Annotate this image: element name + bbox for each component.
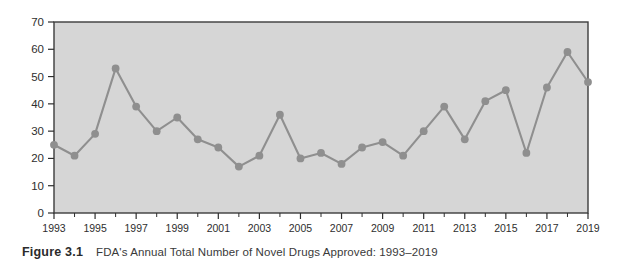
x-axis-tick-label: 2013 [453,222,477,232]
data-point-marker: 1999: 35 [173,114,181,122]
x-axis-tick-label: 2015 [494,222,518,232]
y-axis-tick-label: 30 [31,125,44,137]
data-point-marker: 1994: 21 [71,152,79,160]
chart-plot-area: 010203040506070 199319951997199920012003… [0,0,621,232]
x-axis-tick-label: 2001 [207,222,231,232]
data-point-marker: 2011: 30 [420,127,428,135]
y-axis-tick-label: 10 [31,180,44,192]
x-axis-tick-label: 2005 [289,222,313,232]
x-axis-tick-label: 1999 [166,222,190,232]
x-axis-tick-label: 2003 [248,222,272,232]
x-axis-tick-label: 1993 [42,222,66,232]
line-chart: 010203040506070 199319951997199920012003… [0,0,621,232]
data-point-marker: 2019: 48 [584,78,592,86]
data-point-marker: 2001: 24 [214,144,222,152]
data-point-marker: 2013: 27 [461,135,469,143]
figure-caption: Figure 3.1 FDA's Annual Total Number of … [22,241,602,263]
data-point-marker: 2002: 17 [235,163,243,171]
y-axis-ticks: 010203040506070 [31,16,54,219]
data-point-marker: 2014: 41 [481,97,489,105]
figure-caption-text: FDA's Annual Total Number of Novel Drugs… [96,246,438,258]
data-point-marker: 2018: 59 [564,48,572,56]
data-point-marker: 2007: 18 [338,160,346,168]
data-point-marker: 2008: 24 [358,144,366,152]
data-point-marker: 2004: 36 [276,111,284,119]
figure-caption-label: Figure 3.1 [22,245,83,259]
y-axis-tick-label: 0 [38,207,44,219]
data-point-marker: 1997: 39 [132,103,140,111]
data-point-marker: 2015: 45 [502,86,510,94]
x-axis-tick-label: 2009 [371,222,395,232]
y-axis-tick-label: 20 [31,152,44,164]
data-point-marker: 1993: 25 [50,141,58,149]
x-axis-tick-label: 2019 [576,222,600,232]
x-axis-tick-label: 1997 [124,222,148,232]
data-point-marker: 1996: 53 [112,64,120,72]
data-point-marker: 1995: 29 [91,130,99,138]
data-point-marker: 2016: 22 [522,149,530,157]
y-axis-tick-label: 70 [31,16,44,28]
x-axis-tick-label: 1995 [83,222,107,232]
plot-background [54,22,588,213]
data-point-marker: 2006: 22 [317,149,325,157]
y-axis-tick-label: 40 [31,98,44,110]
y-axis-tick-label: 50 [31,71,44,83]
data-point-marker: 2010: 21 [399,152,407,160]
data-point-marker: 2005: 20 [297,155,305,163]
data-point-marker: 2009: 26 [379,138,387,146]
x-axis-tick-label: 2007 [330,222,354,232]
data-point-marker: 2017: 46 [543,84,551,92]
data-point-marker: 2000: 27 [194,135,202,143]
data-point-marker: 1998: 30 [153,127,161,135]
data-point-marker: 2003: 21 [255,152,263,160]
x-axis-tick-label: 2017 [535,222,559,232]
x-axis-ticks: 1993199519971999200120032005200720092011… [42,213,600,232]
y-axis-tick-label: 60 [31,43,44,55]
x-axis-tick-label: 2011 [412,222,435,232]
figure: 010203040506070 199319951997199920012003… [0,0,621,270]
data-point-marker: 2012: 39 [440,103,448,111]
